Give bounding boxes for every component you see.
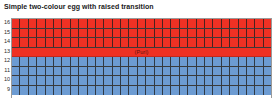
chart-cell <box>71 86 79 96</box>
chart-cell <box>12 86 20 96</box>
chart-cell <box>46 57 54 66</box>
chart-cell <box>197 76 205 85</box>
chart-cell <box>264 29 271 38</box>
chart-cell <box>222 38 230 47</box>
chart-cell <box>230 86 238 96</box>
chart-cell <box>138 67 146 76</box>
chart-cell <box>264 38 271 47</box>
chart-cell <box>239 29 247 38</box>
chart-cell <box>146 38 154 47</box>
chart-cell <box>239 57 247 66</box>
chart-cell <box>129 57 137 66</box>
chart-cell <box>230 38 238 47</box>
chart-cell <box>180 19 188 28</box>
chart-row <box>12 57 271 67</box>
chart-cell <box>54 29 62 38</box>
chart-cell <box>163 86 171 96</box>
chart-row <box>12 38 271 48</box>
chart-cell <box>20 86 28 96</box>
chart-cell <box>213 19 221 28</box>
chart-cell <box>264 86 271 96</box>
chart-cell <box>79 86 87 96</box>
chart-cell <box>29 57 37 66</box>
chart-cell <box>129 38 137 47</box>
chart-cell <box>79 38 87 47</box>
chart-row-cells <box>12 57 271 66</box>
chart-cell <box>197 38 205 47</box>
chart-cell <box>79 67 87 76</box>
chart-cell <box>113 86 121 96</box>
chart-cell <box>104 19 112 28</box>
chart-cell <box>155 67 163 76</box>
chart-cell <box>255 19 263 28</box>
chart-row-cells <box>12 76 271 85</box>
chart-cell <box>222 19 230 28</box>
chart-cell <box>54 86 62 96</box>
chart-cell <box>37 86 45 96</box>
chart-cell <box>79 57 87 66</box>
chart-cell <box>213 38 221 47</box>
chart-cell <box>247 19 255 28</box>
chart-cell <box>255 29 263 38</box>
chart-row-cells <box>12 19 271 28</box>
chart-cell <box>239 86 247 96</box>
chart-cell <box>247 76 255 85</box>
chart-cell <box>163 57 171 66</box>
y-axis-tick: 16 <box>0 18 11 28</box>
chart-cell <box>213 86 221 96</box>
chart-row <box>12 29 271 39</box>
chart-cell <box>146 19 154 28</box>
chart-cell <box>121 29 129 38</box>
chart-cell <box>146 29 154 38</box>
chart-cell <box>12 76 20 85</box>
chart-cell <box>62 86 70 96</box>
chart-cell <box>155 29 163 38</box>
chart-cell <box>163 76 171 85</box>
chart-cell <box>88 86 96 96</box>
chart-cell <box>188 86 196 96</box>
chart-cell <box>113 38 121 47</box>
chart-cell <box>121 67 129 76</box>
chart-cell <box>197 67 205 76</box>
chart-cell <box>37 19 45 28</box>
chart-cell <box>46 67 54 76</box>
chart-cell <box>205 76 213 85</box>
chart-cell <box>247 86 255 96</box>
chart-cell <box>230 67 238 76</box>
chart-cell <box>213 29 221 38</box>
chart-cell <box>230 29 238 38</box>
chart-cell <box>205 19 213 28</box>
chart-cell <box>62 67 70 76</box>
chart-cell <box>171 19 179 28</box>
chart-row-cells <box>12 86 271 96</box>
chart-cell <box>20 38 28 47</box>
chart-cell <box>264 19 271 28</box>
chart-cell <box>171 29 179 38</box>
chart-cell <box>239 19 247 28</box>
chart-cell <box>71 67 79 76</box>
chart-cell <box>62 38 70 47</box>
chart-row-cells <box>12 67 271 76</box>
chart-cell <box>46 29 54 38</box>
chart-cell <box>180 86 188 96</box>
chart-cell <box>71 38 79 47</box>
chart-cell <box>104 38 112 47</box>
chart-cell <box>180 57 188 66</box>
chart-cell <box>29 67 37 76</box>
chart-cell <box>171 67 179 76</box>
chart-cell <box>113 67 121 76</box>
chart-cell <box>222 76 230 85</box>
chart-cell <box>12 57 20 66</box>
chart-cell <box>239 67 247 76</box>
chart-cell <box>113 29 121 38</box>
chart-cell <box>146 57 154 66</box>
chart-cell <box>37 57 45 66</box>
chart-cell <box>71 29 79 38</box>
chart-cell <box>29 29 37 38</box>
chart-cell <box>188 76 196 85</box>
chart-cell <box>146 67 154 76</box>
chart-cell <box>79 29 87 38</box>
chart-cell <box>171 76 179 85</box>
chart-cell <box>20 29 28 38</box>
chart-cell <box>197 29 205 38</box>
